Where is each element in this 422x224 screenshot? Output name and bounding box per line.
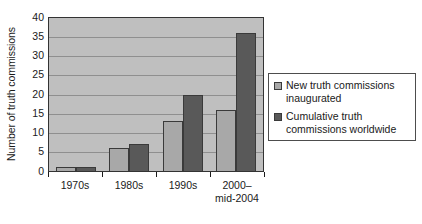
x-tick-label-line1: 1970s [61,179,90,191]
x-tick-label: 1970s [48,179,102,205]
bar [109,148,129,171]
y-tick-label: 0 [22,166,44,177]
y-tick-label: 40 [22,12,44,23]
bar [56,167,76,171]
y-tick-label: 15 [22,108,44,119]
y-tick-label: 25 [22,69,44,80]
legend-label-line2: inaugurated [286,92,341,104]
y-tick-label: 30 [22,50,44,61]
legend-label-line2: commissions worldwide [286,123,396,135]
x-tick-label-line2: mid-2004 [210,192,264,205]
bar [216,110,236,171]
bar [236,33,256,171]
x-tick-label: 2000–mid-2004 [210,179,264,205]
legend-swatch-icon [274,113,282,121]
legend-item: New truth commissionsinaugurated [274,79,410,104]
bar [129,144,149,171]
x-tick-mark [210,172,211,177]
bar-group [49,18,103,171]
x-tick-mark [102,172,103,177]
legend-label: Cumulative truthcommissions worldwide [286,110,396,135]
x-tick-label: 1990s [156,179,210,205]
legend-item: Cumulative truthcommissions worldwide [274,110,410,135]
x-axis-tick-marks [48,172,264,177]
bar [163,121,183,171]
x-tick-mark [48,172,49,177]
plot-area [48,17,264,172]
x-tick-label-line1: 2000– [222,179,251,191]
y-tick-label: 35 [22,31,44,42]
legend-swatch-icon [274,82,282,90]
bar-chart-figure: Number of truth commissions 403530252015… [0,0,422,224]
legend-label-line1: New truth commissions [286,79,395,91]
y-tick-label: 10 [22,127,44,138]
x-tick-mark [264,172,265,177]
chart-legend: New truth commissionsinauguratedCumulati… [268,73,416,141]
bar-group [210,18,264,171]
legend-label: New truth commissionsinaugurated [286,79,395,104]
legend-label-line1: Cumulative truth [286,110,362,122]
y-tick-label: 20 [22,89,44,100]
x-tick-label: 1980s [102,179,156,205]
x-tick-label-line1: 1980s [115,179,144,191]
bar-group [103,18,157,171]
bar-group [156,18,210,171]
y-axis-tick-labels: 4035302520151050 [22,11,44,172]
x-tick-label-line1: 1990s [169,179,198,191]
bars-layer [49,18,263,171]
x-tick-mark [156,172,157,177]
bar [76,167,96,171]
x-axis-tick-labels: 1970s1980s1990s2000–mid-2004 [48,179,264,205]
bar [183,95,203,172]
y-tick-label: 5 [22,146,44,157]
y-axis-title: Number of truth commissions [5,14,17,174]
